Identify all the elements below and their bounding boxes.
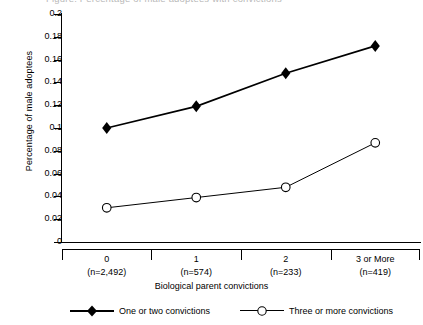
category-count: (n=574)	[150, 266, 242, 279]
category-count: (n=2,492)	[61, 266, 153, 279]
x-axis-category-label: 3 or More(n=419)	[329, 253, 421, 279]
x-axis-category-label: 1(n=574)	[150, 253, 242, 279]
series-line	[107, 143, 376, 208]
category-count: (n=233)	[240, 266, 332, 279]
filled-diamond-marker	[281, 67, 290, 79]
legend-label-three-or-more: Three or more convictions	[289, 306, 393, 316]
chart-figure: Figure. Percentage of male adoptees with…	[0, 0, 423, 325]
series-one-or-two	[102, 40, 380, 134]
series-line	[107, 46, 376, 128]
filled-diamond-marker	[102, 122, 111, 134]
category-name: 3 or More	[356, 254, 395, 264]
category-name: 2	[283, 254, 288, 264]
filled-diamond-marker	[192, 100, 201, 112]
open-circle-marker	[371, 139, 380, 148]
filled-diamond-marker	[371, 40, 380, 52]
category-name: 0	[104, 254, 109, 264]
x-axis-title: Biological parent convictions	[0, 281, 423, 291]
legend-item-three-or-more: Three or more convictions	[240, 303, 393, 319]
open-circle-marker	[192, 193, 201, 202]
x-axis-category-label: 2(n=233)	[240, 253, 332, 279]
chart-legend: One or two convictions Three or more con…	[0, 303, 423, 321]
open-circle-marker-icon	[240, 304, 284, 318]
open-circle-marker	[281, 183, 290, 192]
series-three-or-more	[102, 139, 379, 213]
open-circle-marker	[102, 204, 111, 213]
category-name: 1	[194, 254, 199, 264]
legend-item-one-or-two: One or two convictions	[70, 303, 210, 319]
filled-diamond-marker-icon	[70, 304, 114, 318]
legend-label-one-or-two: One or two convictions	[119, 306, 210, 316]
x-axis-category-label: 0(n=2,492)	[61, 253, 153, 279]
category-count: (n=419)	[329, 266, 421, 279]
